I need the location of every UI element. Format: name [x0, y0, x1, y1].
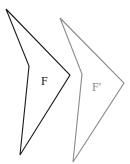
- shape-f: [6, 9, 70, 155]
- diagram-canvas: F F′: [0, 0, 130, 164]
- label-f-prime: F′: [92, 80, 102, 94]
- label-f: F: [41, 74, 48, 88]
